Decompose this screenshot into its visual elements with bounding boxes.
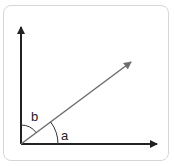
angle-b-label: b bbox=[31, 109, 38, 124]
angle-b-arc bbox=[21, 125, 36, 133]
angle-diagram: a b bbox=[0, 0, 174, 166]
angle-a-label: a bbox=[61, 128, 69, 143]
ray-arrow bbox=[21, 62, 131, 144]
angle-a-arc bbox=[51, 122, 58, 144]
